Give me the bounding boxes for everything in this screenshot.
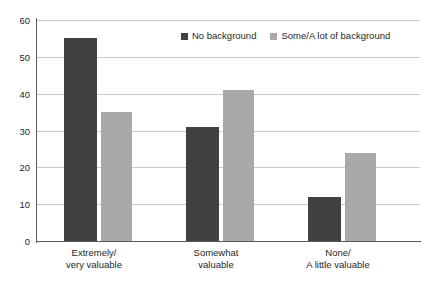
x-category-line-1: Somewhat [156,247,276,259]
x-category-label-extremely-very-valuable: Extremely/ very valuable [34,247,154,270]
y-tick-10: 10 [0,200,30,210]
bar-no-background-none-a-little-valuable [308,197,341,241]
plot-area [36,20,420,241]
x-axis-line [36,241,421,242]
x-category-line-2: valuable [156,259,276,271]
y-axis-tick-labels: 60 50 40 30 20 10 0 [0,20,30,241]
legend-label-no-background: No background [192,31,256,41]
bar-some-a-lot-of-background-extremely-very-valuable [101,112,132,241]
bar-no-background-extremely-very-valuable [64,38,97,241]
y-tick-0: 0 [0,237,30,247]
y-tick-50: 50 [0,53,30,63]
gridline-60 [36,20,420,21]
x-category-line-1: Extremely/ [34,247,154,259]
bar-some-a-lot-of-background-somewhat-valuable [223,90,254,241]
x-category-label-none-a-little-valuable: None/ A little valuable [278,247,398,270]
y-tick-30: 30 [0,127,30,137]
x-category-label-somewhat-valuable: Somewhat valuable [156,247,276,270]
bar-no-background-somewhat-valuable [186,127,219,241]
x-category-line-1: None/ [278,247,398,259]
chart-legend: No background Some/A lot of background [181,31,390,41]
legend-entry-some-a-lot-of-background: Some/A lot of background [270,31,390,41]
legend-label-some-a-lot-of-background: Some/A lot of background [281,31,390,41]
y-axis-line [36,18,37,243]
legend-swatch-icon-no-background [181,33,188,40]
y-tick-20: 20 [0,163,30,173]
y-tick-60: 60 [0,16,30,26]
x-category-line-2: very valuable [34,259,154,271]
y-tick-40: 40 [0,90,30,100]
bar-chart: 60 50 40 30 20 10 0 Extremely/ very valu… [0,0,429,289]
x-category-line-2: A little valuable [278,259,398,271]
bar-some-a-lot-of-background-none-a-little-valuable [345,153,376,241]
legend-entry-no-background: No background [181,31,256,41]
legend-swatch-icon-some-a-lot-of-background [270,33,277,40]
